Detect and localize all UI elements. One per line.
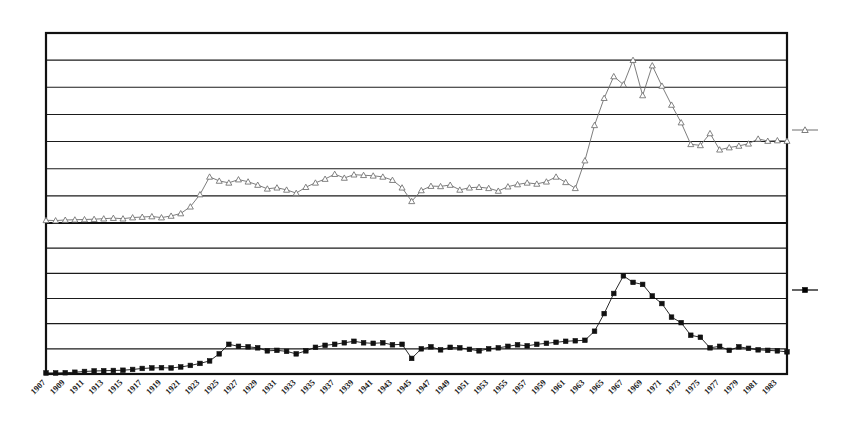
data-point-square — [746, 346, 751, 351]
data-point-square — [698, 335, 703, 340]
data-point-square — [467, 347, 472, 352]
data-point-square — [381, 340, 386, 345]
data-point-square — [188, 363, 193, 368]
x-tick-label: 1983 — [760, 377, 779, 396]
x-tick-label: 1949 — [433, 377, 452, 396]
data-point-square — [669, 315, 674, 320]
data-point-square — [169, 366, 174, 371]
data-point-triangle — [582, 158, 588, 163]
data-point-square — [592, 329, 597, 334]
data-point-square — [419, 347, 424, 352]
data-point-square — [727, 348, 732, 353]
data-point-square — [332, 342, 337, 347]
data-point-square — [573, 338, 578, 343]
x-axis-labels: 1907190919111913191519171919192119231925… — [28, 377, 778, 397]
x-tick-label: 1939 — [336, 377, 355, 396]
plot-frame — [46, 33, 787, 374]
x-tick-label: 1955 — [490, 377, 509, 396]
data-point-square — [448, 345, 453, 350]
data-point-triangle — [216, 178, 222, 183]
data-point-triangle — [274, 185, 280, 190]
x-tick-label: 1947 — [413, 377, 433, 397]
x-tick-label: 1923 — [182, 377, 201, 396]
data-point-square — [323, 343, 328, 348]
x-tick-label: 1919 — [144, 377, 163, 396]
data-point-square — [294, 352, 299, 357]
x-tick-label: 1915 — [105, 377, 124, 396]
data-point-triangle — [322, 176, 328, 181]
data-point-square — [429, 345, 434, 350]
data-point-square — [438, 348, 443, 353]
data-point-square — [602, 311, 607, 316]
x-tick-label: 1907 — [28, 377, 48, 397]
data-point-triangle — [543, 179, 549, 184]
data-point-triangle — [707, 130, 713, 135]
data-point-square — [679, 320, 684, 325]
legend-group — [792, 127, 818, 293]
data-point-square — [708, 346, 713, 351]
data-point-square — [390, 343, 395, 348]
x-tick-label: 1925 — [202, 377, 221, 396]
data-point-square — [111, 368, 116, 373]
data-point-square — [496, 346, 501, 351]
legend-marker-lower[interactable] — [792, 287, 818, 292]
gridlines-group — [46, 60, 787, 349]
data-point-square — [525, 344, 530, 349]
x-tick-label: 1921 — [163, 377, 182, 396]
data-point-square — [486, 347, 491, 352]
data-point-square — [400, 342, 405, 347]
data-point-square — [640, 282, 645, 287]
data-point-triangle — [649, 63, 655, 68]
data-point-triangle — [563, 179, 569, 184]
x-tick-label: 1953 — [471, 377, 490, 396]
data-point-triangle — [553, 174, 559, 179]
data-point-square — [304, 349, 309, 354]
data-point-square — [409, 356, 414, 361]
data-point-square — [92, 369, 97, 374]
x-tick-label: 1973 — [663, 377, 682, 396]
data-point-square — [361, 340, 366, 345]
x-tick-label: 1957 — [509, 377, 529, 397]
data-point-square — [631, 280, 636, 285]
data-point-triangle — [312, 180, 318, 185]
data-point-square — [313, 345, 318, 350]
x-tick-label: 1961 — [548, 377, 567, 396]
data-point-triangle — [303, 184, 309, 189]
data-point-square — [53, 371, 58, 376]
data-point-square — [544, 341, 549, 346]
data-point-square — [227, 342, 232, 347]
data-point-square — [255, 346, 260, 351]
x-tick-label: 1933 — [279, 377, 298, 396]
x-tick-label: 1975 — [683, 377, 702, 396]
data-point-square — [534, 342, 539, 347]
data-point-square — [371, 341, 376, 346]
data-point-square — [63, 370, 68, 375]
data-point-triangle — [592, 122, 598, 127]
x-tick-label: 1935 — [298, 377, 317, 396]
x-tick-label: 1969 — [625, 377, 644, 396]
dual-panel-line-chart: 1907190919111913191519171919192119231925… — [0, 0, 863, 433]
x-tick-label: 1979 — [721, 377, 740, 396]
data-point-square — [275, 348, 280, 353]
legend-marker-upper[interactable] — [792, 127, 818, 133]
data-point-triangle — [197, 192, 203, 197]
x-tick-label: 1971 — [644, 377, 663, 396]
legend-marker-square-icon — [802, 287, 807, 292]
series-group — [43, 57, 790, 375]
x-tick-label: 1943 — [375, 377, 394, 396]
data-point-square — [352, 339, 357, 344]
data-point-triangle — [524, 180, 530, 185]
data-point-square — [246, 345, 251, 350]
data-point-square — [178, 365, 183, 370]
data-point-square — [650, 294, 655, 299]
data-point-triangle — [418, 187, 424, 192]
data-point-triangle — [669, 102, 675, 107]
data-point-square — [140, 366, 145, 371]
x-tick-label: 1911 — [67, 377, 86, 396]
data-point-square — [717, 344, 722, 349]
data-point-square — [660, 301, 665, 306]
x-tick-label: 1965 — [586, 377, 605, 396]
x-tick-label: 1927 — [221, 377, 241, 397]
data-point-square — [477, 349, 482, 354]
x-tick-label: 1977 — [702, 377, 722, 397]
